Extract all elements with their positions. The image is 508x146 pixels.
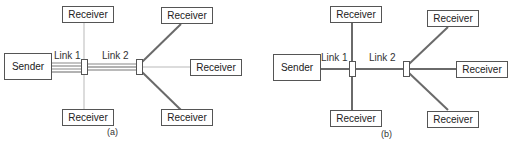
router-2 <box>136 59 143 75</box>
router-2 <box>403 61 410 77</box>
receiver-node: Receiver <box>427 111 479 128</box>
receiver-node: Receiver <box>161 109 213 126</box>
receiver-node: Receiver <box>62 109 114 126</box>
router-1 <box>81 59 88 75</box>
receiver-node: Receiver <box>190 59 242 76</box>
link-2-label: Link 2 <box>102 50 129 61</box>
receiver-node: Receiver <box>456 61 508 78</box>
receiver-node: Receiver <box>161 7 213 24</box>
router-1 <box>349 61 356 77</box>
receiver-node: Receiver <box>427 10 479 27</box>
receiver-node: Receiver <box>330 110 382 127</box>
panel-caption: (a) <box>107 127 118 137</box>
sender-node: Sender <box>4 53 52 80</box>
panel-b: Sender Receiver Receiver Receiver Receiv… <box>252 0 504 146</box>
panel-a: Sender Receiver Receiver Receiver Receiv… <box>0 0 252 146</box>
panel-caption: (b) <box>381 129 392 139</box>
receiver-node: Receiver <box>330 6 382 23</box>
receiver-node: Receiver <box>62 6 114 23</box>
sender-node: Sender <box>273 54 321 81</box>
link-2-label: Link 2 <box>369 52 396 63</box>
link-1-label: Link 1 <box>54 50 81 61</box>
link-1-label: Link 1 <box>321 52 348 63</box>
